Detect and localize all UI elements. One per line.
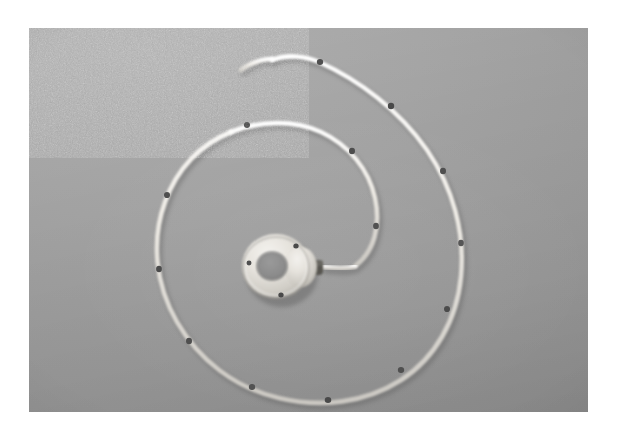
cable-shadow: [159, 60, 464, 407]
port-hole: [247, 261, 252, 266]
page-root: white ring-shaped device with attached c…: [0, 0, 617, 437]
marker-band: [317, 59, 323, 65]
marker-band: [244, 122, 250, 128]
marker-band: [156, 266, 162, 272]
cable-tail-segment: [323, 266, 355, 268]
marker-band: [440, 168, 446, 174]
cable-marker-bands: [156, 59, 464, 403]
marker-band: [325, 397, 332, 403]
marker-band: [398, 367, 404, 373]
photo-subject-layer: [29, 28, 588, 412]
marker-band: [249, 384, 255, 390]
catheter-device-illustration: [29, 28, 588, 412]
marker-band: [349, 148, 355, 154]
ring-device: [242, 234, 323, 307]
marker-band: [444, 306, 450, 312]
marker-band: [164, 192, 170, 198]
cable-outer-loop: [157, 56, 462, 403]
ring-device-flange: [285, 247, 317, 287]
marker-band: [458, 240, 464, 246]
port-hole: [278, 293, 283, 298]
photograph: [29, 28, 588, 412]
marker-band: [388, 103, 394, 109]
marker-band: [186, 338, 192, 344]
marker-band: [373, 223, 379, 229]
port-hole: [293, 244, 298, 249]
cable-free-end: [241, 59, 275, 74]
